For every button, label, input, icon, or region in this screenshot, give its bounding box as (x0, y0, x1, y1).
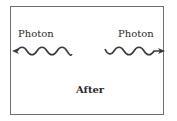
left-arrowhead-icon (12, 48, 19, 54)
left-photon-wave-icon (11, 44, 73, 58)
right-photon-wave-icon (104, 44, 166, 58)
left-photon-label: Photon (18, 28, 54, 39)
right-photon-label: Photon (118, 28, 154, 39)
after-caption: After (76, 84, 104, 95)
left-photon-wave (17, 47, 72, 55)
diagram-frame (10, 6, 164, 115)
right-photon-wave (105, 47, 160, 55)
